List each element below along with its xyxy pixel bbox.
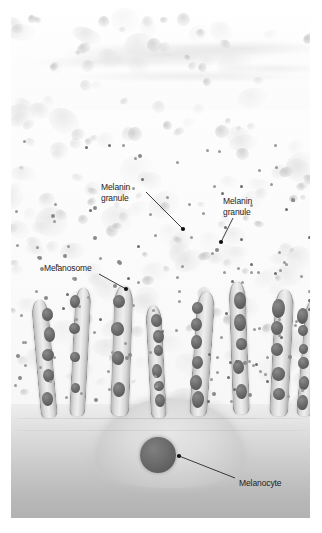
melanin-granule [250, 263, 253, 266]
melanin-granule [67, 245, 70, 248]
melanin-granule [14, 384, 17, 387]
melanin-granule [220, 336, 223, 339]
melanin-granule [283, 261, 286, 264]
melanin-granule [87, 296, 90, 299]
melanin-granule [178, 290, 181, 293]
melanin-granule [248, 360, 251, 363]
melanin-granule [278, 334, 281, 337]
melanin-granule [221, 192, 224, 195]
melanin-granule [215, 248, 219, 252]
melanin-granule [35, 290, 38, 293]
melanin-granule [16, 244, 19, 247]
melanin-granule [266, 356, 269, 359]
melanin-granule [154, 234, 157, 237]
melanin-granule [85, 146, 88, 149]
melanosome [271, 367, 284, 381]
keratinocyte-nucleus [196, 201, 204, 207]
label-melanosome: Melanosome [44, 263, 92, 274]
melanin-granule [155, 385, 158, 388]
melanin-granule [66, 293, 69, 296]
melanin-granule [308, 290, 310, 293]
melanin-granule [128, 353, 132, 357]
melanin-granule [23, 140, 26, 143]
melanosome [233, 314, 245, 331]
melanin-granule [274, 144, 277, 147]
melanin-granule [288, 355, 292, 359]
melanin-granule [49, 380, 52, 383]
illustration-figure: Melanin granule Melanin granule Melanoso… [0, 0, 322, 533]
melanin-granule [149, 213, 152, 216]
melanin-granule [216, 371, 219, 374]
melanin-granule [279, 269, 282, 272]
melanosome [234, 292, 246, 309]
melanin-granule [161, 330, 164, 333]
melanin-granule [63, 254, 67, 258]
melanin-granule [178, 300, 181, 303]
melanin-granule [154, 375, 157, 378]
melanin-granule [118, 261, 122, 265]
melanin-granule [44, 296, 48, 300]
melanin-granule [258, 327, 261, 330]
melanin-granule [253, 328, 256, 331]
label-melanin-granule-right: Melanin granule [223, 196, 252, 217]
melanosome [236, 338, 247, 350]
melanosome [271, 299, 285, 318]
melanin-granule [94, 398, 98, 402]
melanosome [273, 388, 285, 400]
melanin-granule [124, 342, 127, 345]
melanin-granule [240, 238, 243, 241]
melanin-granule [18, 376, 22, 380]
melanin-granule [108, 388, 111, 391]
melanin-granule [225, 312, 228, 315]
melanin-granule [308, 299, 310, 302]
melanin-granule [270, 183, 273, 186]
melanin-granule [231, 280, 234, 283]
label-melanin-granule-left: Melanin granule [101, 182, 130, 203]
melanin-granule [166, 196, 169, 199]
melanin-granule [308, 308, 310, 311]
melanin-granule [89, 209, 92, 212]
melanin-granule [22, 341, 25, 344]
keratinocyte-nucleus [78, 215, 88, 224]
melanin-granule [141, 178, 144, 181]
melanin-granule [227, 376, 230, 379]
melanin-granule [230, 400, 233, 403]
melanin-granule [223, 271, 226, 274]
melanin-granule [99, 318, 102, 321]
melanin-granule [266, 380, 269, 383]
melanin-granule [36, 246, 39, 249]
keratinocyte-nucleus [111, 223, 121, 229]
melanosome [43, 327, 55, 343]
melanin-granule [190, 236, 193, 239]
melanocyte-nucleus [140, 437, 176, 473]
melanin-granule [210, 378, 213, 381]
melanin-granule [51, 214, 55, 218]
melanin-granule [132, 304, 135, 307]
melanin-granule [295, 320, 298, 323]
melanin-granule [93, 236, 97, 240]
melanin-granule [255, 363, 258, 366]
melanin-granule [243, 361, 247, 365]
melanin-granule [16, 354, 20, 358]
melanin-granule [54, 203, 57, 206]
melanin-granule [134, 157, 137, 160]
melanin-granule [188, 203, 191, 206]
melanosome [298, 343, 308, 353]
melanin-granule [274, 272, 277, 275]
keratinocyte [221, 226, 246, 245]
melanin-granule [224, 226, 227, 229]
label-melanocyte: Melanocyte [239, 478, 281, 489]
melanin-granule [175, 329, 178, 332]
melanin-granule [202, 212, 205, 215]
illustration-stage: Melanin granule Melanin granule Melanoso… [11, 0, 310, 518]
melanosome [41, 391, 53, 406]
